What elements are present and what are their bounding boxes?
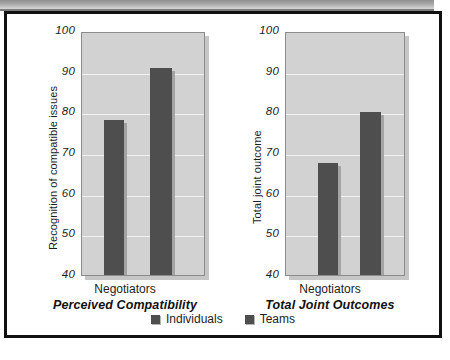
y-tick-label-50: 50 bbox=[253, 227, 279, 239]
gridline-50 bbox=[286, 236, 404, 237]
y-tick-label-60: 60 bbox=[49, 187, 75, 199]
bar-individuals[interactable] bbox=[318, 163, 338, 275]
legend-item-teams: Teams bbox=[245, 312, 295, 326]
bar-individuals[interactable] bbox=[104, 120, 124, 275]
y-tick-label-40: 40 bbox=[49, 268, 75, 280]
gridline-90 bbox=[286, 74, 404, 75]
y-tick-label-70: 70 bbox=[49, 146, 75, 158]
panel-title: Perceived Compatibility bbox=[25, 298, 225, 312]
legend-item-individuals: Individuals bbox=[151, 312, 223, 326]
legend-swatch-icon bbox=[245, 315, 254, 324]
gridline-60 bbox=[82, 196, 204, 197]
y-tick-label-70: 70 bbox=[253, 146, 279, 158]
y-tick-label-80: 80 bbox=[49, 105, 75, 117]
y-tick-label-60: 60 bbox=[253, 187, 279, 199]
figure-container: Recognition of compatible issues 100 90 … bbox=[7, 14, 439, 335]
chart-legend: Individuals Teams bbox=[7, 312, 439, 326]
y-tick-label-100: 100 bbox=[49, 24, 75, 36]
y-tick-label-90: 90 bbox=[253, 65, 279, 77]
gridline-80 bbox=[82, 114, 204, 115]
scan-bottom-margin bbox=[0, 341, 450, 360]
y-tick-label-40: 40 bbox=[253, 268, 279, 280]
gridline-90 bbox=[82, 74, 204, 75]
y-tick-label-100: 100 bbox=[253, 24, 279, 36]
legend-label: Individuals bbox=[166, 312, 223, 326]
legend-label: Teams bbox=[260, 312, 295, 326]
panel-title: Total Joint Outcomes bbox=[235, 298, 425, 312]
x-axis-label: Negotiators bbox=[235, 282, 425, 296]
gridline-70 bbox=[82, 155, 204, 156]
gridline-60 bbox=[286, 196, 404, 197]
plot-area bbox=[285, 32, 405, 276]
plot-area-wrapper bbox=[81, 32, 205, 276]
plot-area-wrapper bbox=[285, 32, 405, 276]
gridline-50 bbox=[82, 236, 204, 237]
y-tick-label-90: 90 bbox=[49, 65, 75, 77]
gridline-80 bbox=[286, 114, 404, 115]
plot-area bbox=[81, 32, 205, 276]
legend-swatch-icon bbox=[151, 315, 160, 324]
bar-teams[interactable] bbox=[150, 68, 172, 275]
y-axis-title: Total joint outcome bbox=[251, 130, 263, 224]
x-axis-label: Negotiators bbox=[25, 282, 225, 296]
y-tick-label-50: 50 bbox=[49, 227, 75, 239]
bar-teams[interactable] bbox=[360, 112, 381, 275]
y-tick-label-80: 80 bbox=[253, 105, 279, 117]
gridline-70 bbox=[286, 155, 404, 156]
